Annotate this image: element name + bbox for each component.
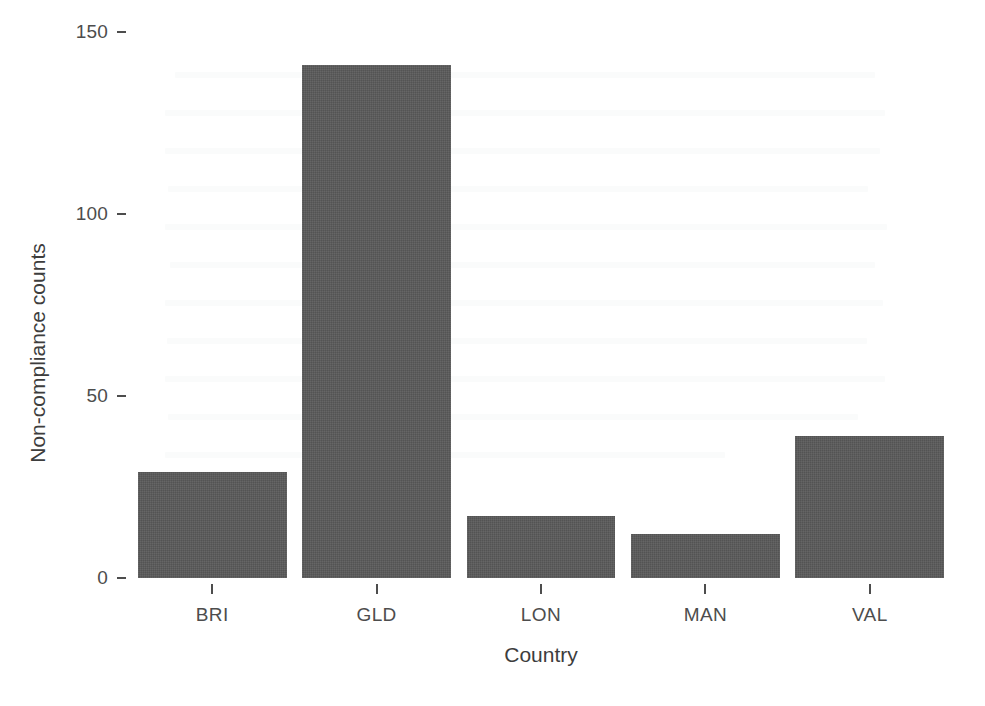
y-tick-label: 50: [86, 385, 108, 407]
x-tick-label-man: MAN: [684, 604, 727, 626]
y-tick-mark: [117, 213, 126, 215]
x-tick-mark: [869, 584, 871, 594]
y-axis-title: Non-compliance counts: [26, 243, 50, 462]
x-tick-label-lon: LON: [521, 604, 561, 626]
y-tick-mark: [117, 395, 126, 397]
y-tick-mark: [117, 577, 126, 579]
y-tick-mark: [117, 31, 126, 33]
bar-slot: [138, 20, 287, 578]
bar-val[interactable]: [795, 436, 944, 578]
bar-bri[interactable]: [138, 472, 287, 578]
plot-panel: [130, 20, 952, 578]
x-tick-mark: [376, 584, 378, 594]
bar-slot: [631, 20, 780, 578]
x-tick-label-val: VAL: [852, 604, 888, 626]
y-tick-label: 150: [76, 21, 108, 43]
bar-chart-figure: Non-compliance counts 050100150 BRIGLDLO…: [0, 0, 985, 706]
y-tick-label: 100: [76, 203, 108, 225]
bar-gld[interactable]: [302, 65, 451, 578]
bar-slot: [467, 20, 616, 578]
bar-slot: [795, 20, 944, 578]
y-tick-label: 0: [97, 567, 108, 589]
x-tick-mark: [704, 584, 706, 594]
bar-man[interactable]: [631, 534, 780, 578]
bar-lon[interactable]: [467, 516, 616, 578]
x-tick-mark: [211, 584, 213, 594]
x-axis-title: Country: [504, 643, 578, 667]
x-tick-label-gld: GLD: [356, 604, 396, 626]
x-tick-label-bri: BRI: [196, 604, 229, 626]
bar-slot: [302, 20, 451, 578]
x-tick-mark: [540, 584, 542, 594]
